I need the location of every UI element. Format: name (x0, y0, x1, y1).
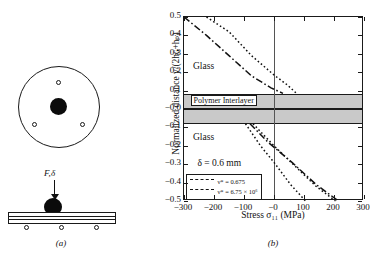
y-axis-tick (358, 91, 362, 92)
y-axis-tick (184, 183, 188, 184)
x-axis-tick-label: −200 (196, 202, 230, 212)
figure-root: F,δ (a) Normalized distance y/(2hɢ+hₚ) (0, 0, 382, 261)
delta-annotation: δ = 0.6 mm (198, 158, 242, 168)
legend-swatch-dashdot-icon (190, 189, 214, 195)
glass-layer-bottom (8, 219, 116, 224)
legend-entry-0: ν* = 0.675 (190, 177, 257, 187)
x-axis-tick-label: 200 (316, 202, 350, 212)
y-axis-tick (358, 146, 362, 147)
y-axis-tick-label: −0.4 (155, 176, 181, 186)
x-axis-tick (274, 195, 275, 199)
y-axis-tick (358, 164, 362, 165)
y-axis-tick (358, 127, 362, 128)
y-axis-tick (358, 54, 362, 55)
polymer-interlayer-label: Polymer Interlayer (191, 95, 257, 106)
glass-region-label-lower: Glass (193, 132, 214, 142)
x-axis-tick-label: −0 (256, 202, 290, 212)
y-axis-tick (358, 183, 362, 184)
chart-legend: ν* = 0.675 ν* = 6.75 × 10⁶ (186, 174, 261, 200)
curve-0 (207, 17, 297, 93)
y-axis-tick-label: 0.2 (155, 65, 181, 75)
x-axis-tick (364, 195, 365, 199)
x-axis-tick-label: 300 (346, 202, 380, 212)
support-point-left (24, 225, 29, 230)
support-hole-right (80, 122, 85, 127)
y-axis-tick (358, 35, 362, 36)
y-axis-tick (358, 72, 362, 73)
y-axis-tick-label: −0.1 (155, 120, 181, 130)
legend-label-1: ν* = 6.75 × 10⁶ (217, 187, 257, 197)
panel-b-chart: Normalized distance y/(2hɢ+hₚ) Glass Gla… (155, 0, 382, 261)
curve-1 (184, 17, 283, 93)
y-axis-tick-label: 0.5 (155, 10, 181, 20)
laminate-cross-section (8, 212, 116, 224)
support-point-center (59, 225, 64, 230)
y-axis-tick (184, 17, 188, 18)
x-axis-tick (184, 195, 185, 199)
support-point-right (94, 225, 99, 230)
x-axis-tick (244, 17, 245, 21)
legend-swatch-dotted-icon (190, 179, 214, 185)
plot-area: Glass Glass Polymer Interlayer δ = 0.6 m… (183, 16, 363, 200)
x-axis-tick (244, 195, 245, 199)
y-axis-tick-label: 0.3 (155, 47, 181, 57)
legend-entry-1: ν* = 6.75 × 10⁶ (190, 187, 257, 197)
y-axis-tick-label: 0.1 (155, 84, 181, 94)
x-axis-tick-label: 100 (286, 202, 320, 212)
y-axis-tick (184, 164, 188, 165)
legend-label-0: ν* = 0.675 (217, 177, 245, 187)
y-axis-tick-label: −0.5 (155, 194, 181, 204)
y-axis-tick (184, 72, 188, 73)
support-hole-left (32, 122, 37, 127)
support-hole-top (56, 80, 61, 85)
x-axis-tick (304, 195, 305, 199)
x-axis-tick (304, 17, 305, 21)
y-axis-tick-label: −0.3 (155, 157, 181, 167)
plate-side-view: F,δ (8, 168, 118, 230)
y-axis-tick (184, 91, 188, 92)
y-axis-tick-label: −0.2 (155, 139, 181, 149)
x-axis-tick-label: −100 (226, 202, 260, 212)
y-axis-tick (184, 146, 188, 147)
y-axis-tick (184, 54, 188, 55)
panel-b-caption: (b) (253, 238, 293, 248)
x-axis-tick (214, 17, 215, 21)
x-axis-tick (334, 17, 335, 21)
x-axis-tick (274, 17, 275, 21)
y-axis-tick-label: 0.4 (155, 28, 181, 38)
impactor-contact-point (50, 98, 67, 115)
y-axis-tick (184, 127, 188, 128)
panel-a-caption: (a) (41, 238, 81, 248)
x-axis-tick (334, 195, 335, 199)
y-axis-tick (358, 109, 362, 110)
x-axis-tick (214, 195, 215, 199)
force-displacement-label: F,δ (44, 168, 55, 178)
y-axis-tick (184, 109, 188, 110)
plate-top-view (18, 66, 102, 150)
panel-a-schematic: F,δ (a) (0, 0, 155, 261)
glass-region-label-upper: Glass (193, 61, 214, 71)
y-axis-tick (184, 35, 188, 36)
curve-3 (250, 124, 339, 201)
y-axis-tick (358, 17, 362, 18)
y-axis-tick-label: −0.0 (155, 102, 181, 112)
x-axis-tick (364, 17, 365, 21)
